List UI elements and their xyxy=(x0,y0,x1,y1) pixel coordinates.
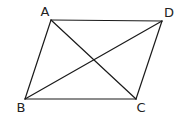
vertex-label-a: A xyxy=(41,4,50,19)
vertex-label-b: B xyxy=(17,100,26,114)
side-ad xyxy=(51,20,162,21)
side-ba xyxy=(25,20,51,99)
side-dc xyxy=(136,21,162,99)
vertex-label-c: C xyxy=(136,100,145,114)
diagonal-bd xyxy=(25,21,162,99)
parallelogram-diagram: A D B C xyxy=(0,0,179,114)
vertex-label-d: D xyxy=(164,5,174,20)
